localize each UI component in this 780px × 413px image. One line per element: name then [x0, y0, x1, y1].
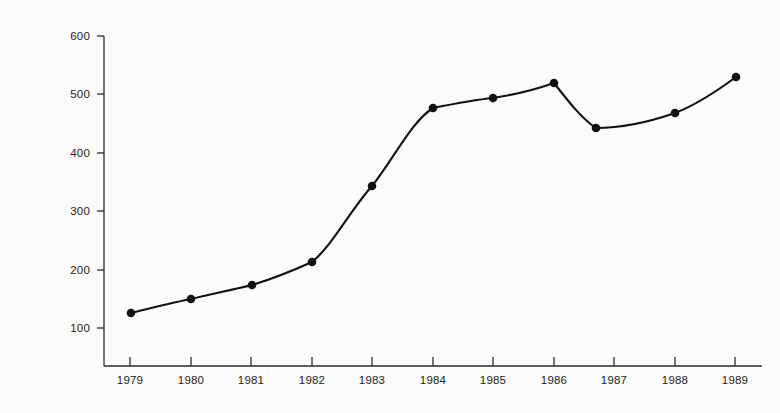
x-tick-label-1985: 1985: [480, 374, 506, 386]
x-tick-label-1987: 1987: [601, 374, 627, 386]
data-point: [127, 309, 136, 318]
data-point: [732, 73, 741, 82]
data-point: [671, 109, 680, 118]
x-axis-ticks: [130, 357, 735, 366]
data-point: [308, 258, 317, 267]
data-point: [248, 281, 257, 290]
x-tick-label-1988: 1988: [662, 374, 688, 386]
y-tick-label-400: 400: [46, 147, 90, 159]
x-tick-label-1979: 1979: [117, 374, 143, 386]
data-point: [429, 104, 438, 113]
data-point: [550, 79, 559, 88]
x-tick-label-1982: 1982: [299, 374, 325, 386]
line-chart-figure: 600 500 400 300 200 100 1979 1980 1981 1…: [0, 0, 780, 413]
x-tick-label-1986: 1986: [541, 374, 567, 386]
data-point: [592, 124, 601, 133]
y-tick-label-100: 100: [46, 322, 90, 334]
y-tick-label-600: 600: [46, 30, 90, 42]
x-tick-label-1984: 1984: [420, 374, 446, 386]
axes: [104, 36, 762, 366]
x-tick-label-1989: 1989: [722, 374, 748, 386]
y-axis-ticks: [97, 36, 104, 328]
data-point-markers: [127, 73, 741, 318]
data-point: [368, 182, 377, 191]
y-tick-label-300: 300: [46, 205, 90, 217]
data-point: [187, 295, 196, 304]
x-tick-label-1983: 1983: [359, 374, 385, 386]
y-tick-label-200: 200: [46, 264, 90, 276]
x-tick-label-1980: 1980: [178, 374, 204, 386]
x-tick-label-1981: 1981: [238, 374, 264, 386]
plot-area: [0, 0, 780, 413]
y-tick-label-500: 500: [46, 88, 90, 100]
data-line-series-1: [131, 77, 736, 313]
data-point: [489, 94, 498, 103]
